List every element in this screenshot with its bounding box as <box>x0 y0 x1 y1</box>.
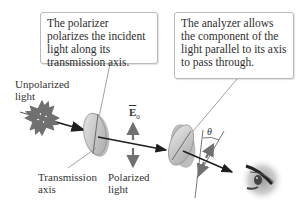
polarized-label-line1: Polarized <box>108 171 150 183</box>
unpolarized-light-label: Unpolarized light <box>15 78 69 102</box>
analyzer-disk-icon <box>163 122 198 170</box>
polarizer-disk-icon <box>81 111 113 158</box>
transmission-label-line2: axis <box>38 183 97 195</box>
angle-theta-label: θ <box>207 126 212 137</box>
transmission-axis-pointer <box>68 148 96 168</box>
unpolarized-label-line1: Unpolarized <box>15 78 69 90</box>
analyzer-callout-text: The analyzer allows the component of the… <box>181 17 286 68</box>
polarized-label-line2: light <box>108 183 150 195</box>
unpolarized-label-line2: light <box>15 90 69 102</box>
polarizer-callout: The polarizer polarizes the incident lig… <box>40 12 158 64</box>
field-vector-subscript: 0 <box>136 113 140 121</box>
angle-indicator <box>195 130 224 198</box>
polarizer-pointer-line <box>98 64 110 122</box>
field-vector-label: E0 <box>129 106 140 121</box>
transmission-label-line1: Transmission <box>38 171 97 183</box>
transmission-axis-label: Transmission axis <box>38 171 97 195</box>
analyzer-pointer-line <box>189 79 237 136</box>
eye-icon <box>240 158 284 202</box>
analyzer-callout: The analyzer allows the component of the… <box>174 12 294 79</box>
polarizer-callout-text: The polarizer polarizes the incident lig… <box>47 17 145 68</box>
polarized-light-label: Polarized light <box>108 171 150 195</box>
starburst-icon <box>26 102 58 134</box>
